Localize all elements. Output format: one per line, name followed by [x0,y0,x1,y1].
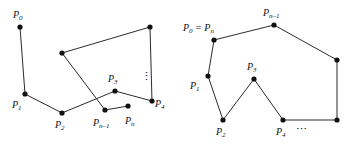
vertex-label-P0: P0 [12,9,23,22]
edge-P1-P2 [208,76,223,120]
vertex-dot-P0=Pn [211,37,216,42]
edge-P1-P2 [25,94,62,113]
edge-P4-topright [150,27,152,101]
vertex-dot-P1 [22,91,27,96]
vertex-dot-P4 [149,98,154,103]
panel-self-intersecting-polygon: P0P1P2P3P4Pn–1Pn⋮ [11,9,165,132]
edge-topmid-Pn-1 [62,53,105,110]
vertex-dot-V-bottom-right [334,117,339,122]
edge-P2-P3 [223,79,254,120]
vertex-label-Pn: Pn [124,115,135,128]
horizontal-ellipsis: ⋯ [296,123,308,135]
edge-right-Pn-1 [274,25,337,60]
vertex-dot-V-top-mid [59,50,64,55]
vertex-label-Pn-1: Pn–1 [262,7,280,20]
vertex-label-P4: P4 [154,98,165,111]
vertex-label-P3: P3 [107,73,118,86]
vertex-dot-Pn [125,103,130,108]
vertical-ellipsis: ⋮ [141,70,153,82]
vertex-dot-Pn-1 [102,107,107,112]
vertex-label-Pn-1: Pn–1 [92,117,110,130]
vertex-dot-V-right [334,57,339,62]
edge-P3-P4 [115,91,152,101]
vertex-dot-P1 [205,73,210,78]
vertex-label-P0=Pn: P0 = Pn [182,22,214,35]
vertex-dot-V-top-right [147,24,152,29]
panel-simple-closed-polygon: P0 = PnP1P2P3P4Pn–1⋯ [182,7,340,139]
vertex-dot-P3 [251,76,256,81]
vertex-label-P2: P2 [215,126,226,139]
vertex-label-P3: P3 [246,61,257,74]
vertex-label-P2: P2 [54,119,65,132]
vertex-dot-P3 [112,88,117,93]
edge-P0-P1 [208,40,214,76]
edge-Pn-1-P0 [214,25,274,40]
edge-P0-P1 [20,27,25,94]
vertex-dot-P4 [280,117,285,122]
vertex-label-P1: P1 [11,99,22,112]
polygon-diagram-svg: P0P1P2P3P4Pn–1Pn⋮P0 = PnP1P2P3P4Pn–1⋯ [0,0,356,145]
vertex-dot-P0 [17,24,22,29]
edge-P3-P4 [254,79,283,120]
edge-topright-topmid [62,27,150,53]
vertex-dot-P2 [220,117,225,122]
edge-Pn-1-Pn [105,106,128,110]
geometry-figure: P0P1P2P3P4Pn–1Pn⋮P0 = PnP1P2P3P4Pn–1⋯ [0,0,356,145]
vertex-dot-P2 [59,110,64,115]
vertex-label-P1: P1 [189,80,200,93]
vertex-dot-Pn-1 [271,22,276,27]
vertex-label-P4: P4 [275,126,286,139]
